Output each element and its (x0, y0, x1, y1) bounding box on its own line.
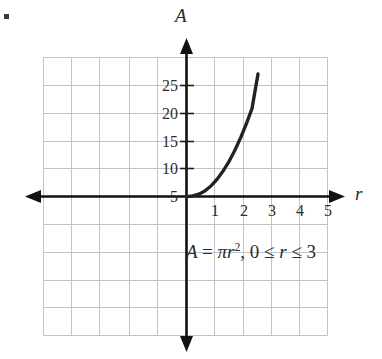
x-tick-label-3: 3 (263, 203, 281, 219)
y-tick-label-10: 10 (148, 161, 178, 177)
equation-comma: , (240, 241, 245, 262)
figure-container: A r 25 20 15 10 5 1 2 3 4 5 A = πr2, 0 ≤… (0, 0, 382, 359)
x-tick-label-2: 2 (235, 203, 253, 219)
coordinate-plane-graph (0, 0, 382, 359)
y-tick-label-25: 25 (148, 78, 178, 94)
parabola-curve (187, 74, 259, 197)
equation-equals: = (202, 241, 213, 262)
y-axis-label: A (175, 6, 187, 25)
equation-pi: π (217, 241, 227, 262)
equation-domain-high: 3 (307, 241, 317, 262)
equation-le-first: ≤ (264, 241, 274, 262)
equation-lhs: A (186, 241, 197, 262)
x-tick-label-1: 1 (206, 203, 224, 219)
equation-le-second: ≤ (291, 241, 301, 262)
x-tick-label-5: 5 (319, 203, 337, 219)
y-tick-label-15: 15 (148, 134, 178, 150)
y-tick-label-5: 5 (148, 189, 178, 205)
equation-domain-low: 0 (250, 241, 260, 262)
y-tick-label-20: 20 (148, 106, 178, 122)
equation-domain-variable: r (279, 241, 286, 262)
x-tick-label-4: 4 (291, 203, 309, 219)
equation-annotation: A = πr2, 0 ≤ r ≤ 3 (186, 242, 316, 261)
x-axis-label: r (355, 184, 362, 203)
